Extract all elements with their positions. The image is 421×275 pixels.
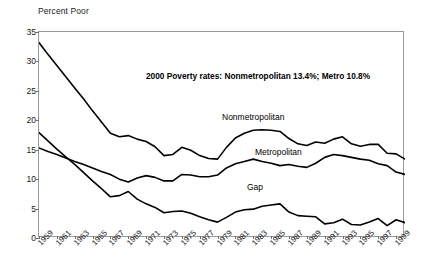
poverty-rate-line-chart: Percent Poor 05101520253035 2000 Poverty… [0,0,421,275]
y-axis-tick-label: 35 [27,27,36,37]
y-axis-tick-mark [36,209,39,210]
y-axis-tick-mark [36,179,39,180]
series-line-nonmetropolitan [39,43,405,160]
poverty-rates-annotation: 2000 Poverty rates: Nonmetropolitan 13.4… [146,71,370,81]
y-axis-tick-label: 15 [27,145,36,155]
y-axis-tick-label: 10 [27,174,36,184]
y-axis-tick-mark [36,61,39,62]
y-axis-tick-label: 30 [27,56,36,66]
y-axis-tick-mark [36,32,39,33]
plot-area: 05101520253035 [38,31,404,237]
y-axis-tick-label: 20 [27,115,36,125]
series-line-gap [39,133,405,226]
series-label-metropolitan: Metropolitan [255,147,302,157]
y-axis-tick-label: 25 [27,86,36,96]
series-label-gap: Gap [247,182,263,192]
y-axis-tick-mark [36,120,39,121]
y-axis-tick-mark [36,150,39,151]
y-axis-tick-mark [36,91,39,92]
chart-lines-svg [39,32,405,238]
series-label-nonmetropolitan: Nonmetropolitan [222,112,284,122]
y-axis-title: Percent Poor [38,6,89,16]
